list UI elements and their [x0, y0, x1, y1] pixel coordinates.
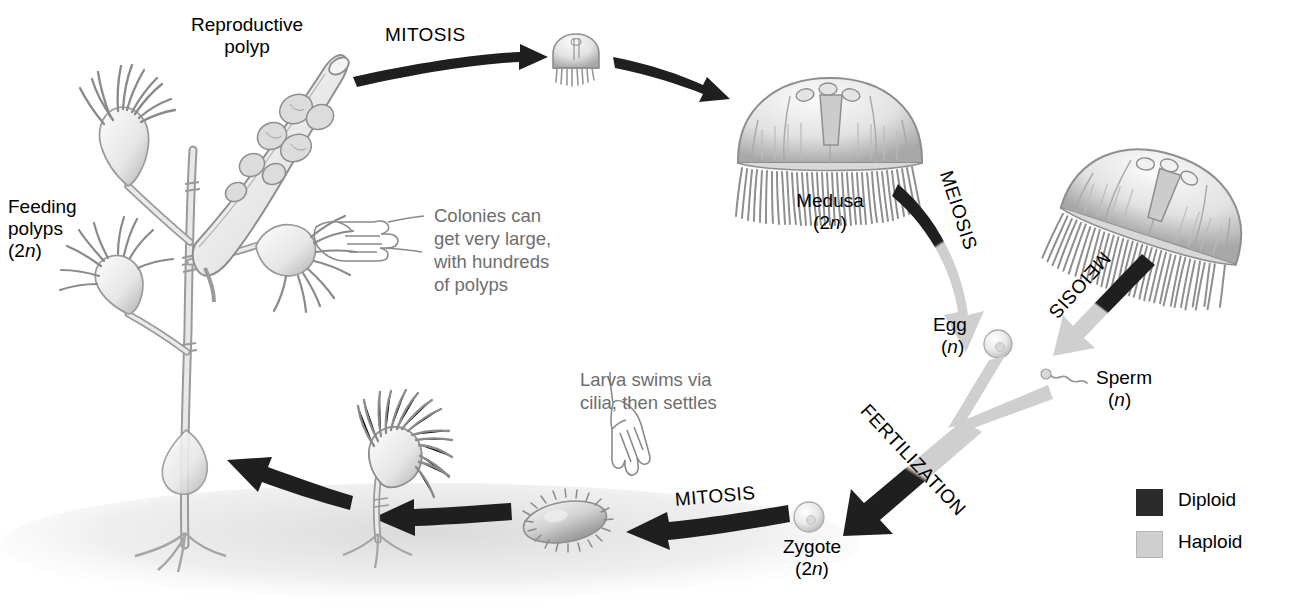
- zygote-ploidy: (2n): [752, 558, 872, 580]
- mitosis-budding-arrow: [353, 44, 548, 87]
- egg-label: Egg: [933, 314, 967, 336]
- legend-label-diploid: Diploid: [1178, 489, 1236, 511]
- zygote-label: Zygote: [752, 536, 872, 558]
- feeding-polyps-label: Feeding polyps: [8, 196, 77, 240]
- medusa-bud-organism: [553, 34, 599, 86]
- reproductive-polyp-label: Reproductive polyp: [172, 14, 322, 58]
- zygote-cell-organism: [794, 502, 824, 532]
- medusa-ploidy: (2n): [760, 212, 900, 234]
- life-cycle-diagram: Reproductive polyp Feeding polyps (2n) M…: [0, 0, 1293, 610]
- medusa-label: Medusa: [760, 190, 900, 212]
- sperm-cell-organism: [1041, 369, 1087, 383]
- larva-behavior-callout: Larva swims via cilia, then settles: [580, 368, 717, 414]
- mitosis-budding-label: MITOSIS: [385, 24, 466, 46]
- legend-swatch-diploid: [1136, 489, 1163, 516]
- sperm-ploidy: (n): [1108, 389, 1131, 411]
- egg-ploidy: (n): [941, 336, 964, 358]
- medusa-growth-arrow: [613, 57, 730, 102]
- diagram-canvas: [0, 0, 1293, 610]
- legend-swatch-haploid: [1136, 531, 1163, 558]
- colony-size-callout: Colonies can get very large, with hundre…: [434, 204, 551, 296]
- egg-cell-organism: [984, 330, 1012, 358]
- feeding-polyps-ploidy: (2n): [8, 240, 42, 262]
- sperm-label: Sperm: [1096, 367, 1152, 389]
- legend-label-haploid: Haploid: [1178, 531, 1242, 553]
